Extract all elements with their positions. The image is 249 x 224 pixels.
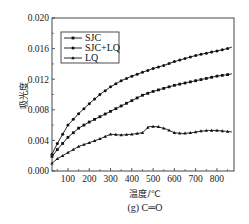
circle-marker-icon	[146, 69, 149, 72]
circle-marker-icon	[215, 49, 218, 52]
square-marker-icon	[88, 121, 91, 124]
square-marker-icon	[67, 136, 70, 139]
series-lq	[50, 125, 232, 165]
square-marker-icon	[98, 115, 101, 118]
square-marker-icon	[104, 113, 107, 116]
circle-marker-icon	[72, 118, 75, 121]
square-marker-icon	[184, 82, 187, 85]
square-marker-icon	[157, 89, 160, 92]
legend: SJCSJC+LQLQ	[61, 32, 121, 63]
line-chart: 100200300400500600700800 0.0000.0040.008…	[0, 0, 249, 224]
circle-marker-icon	[173, 60, 176, 63]
circle-marker-icon	[56, 142, 59, 145]
square-marker-icon	[120, 105, 123, 108]
square-marker-icon	[200, 78, 203, 81]
square-marker-icon	[141, 94, 144, 97]
x-tick-label: 500	[146, 174, 161, 184]
circle-marker-icon	[72, 47, 75, 50]
square-marker-icon	[146, 92, 149, 95]
square-marker-icon	[221, 74, 224, 77]
x-tick-label: 300	[103, 174, 118, 184]
circle-marker-icon	[189, 56, 192, 59]
square-marker-icon	[130, 99, 133, 102]
circle-marker-icon	[104, 89, 107, 92]
figure-caption: (g) C═O	[127, 202, 162, 214]
square-marker-icon	[168, 85, 171, 88]
y-tick-label: 0.000	[28, 166, 50, 176]
y-tick-label: 0.020	[28, 13, 50, 23]
circle-marker-icon	[66, 124, 69, 127]
x-axis: 100200300400500600700800	[57, 168, 227, 184]
circle-marker-icon	[125, 77, 128, 80]
circle-marker-icon	[93, 98, 96, 101]
square-marker-icon	[56, 148, 59, 151]
y-axis-title: 吸光度	[18, 82, 29, 109]
circle-marker-icon	[114, 82, 117, 85]
circle-marker-icon	[88, 102, 91, 105]
y-axis: 0.0000.0040.0080.0120.0160.020	[28, 13, 55, 176]
square-marker-icon	[178, 83, 181, 86]
y-tick-label: 0.016	[28, 44, 50, 54]
square-marker-icon	[194, 79, 197, 82]
square-marker-icon	[152, 90, 155, 93]
circle-marker-icon	[82, 107, 85, 110]
x-tick-label: 700	[189, 174, 204, 184]
square-marker-icon	[93, 118, 96, 121]
circle-marker-icon	[194, 54, 197, 57]
square-marker-icon	[136, 97, 139, 100]
legend-label: LQ	[85, 52, 99, 63]
circle-marker-icon	[184, 57, 187, 60]
square-marker-icon	[173, 84, 176, 87]
circle-marker-icon	[226, 47, 229, 50]
circle-marker-icon	[152, 67, 155, 70]
square-marker-icon	[83, 124, 86, 127]
circle-marker-icon	[109, 85, 112, 88]
x-tick-label: 400	[125, 174, 140, 184]
x-tick-label: 600	[167, 174, 182, 184]
circle-marker-icon	[157, 65, 160, 68]
circle-marker-icon	[178, 59, 181, 62]
square-marker-icon	[61, 142, 64, 145]
square-marker-icon	[125, 102, 128, 105]
square-marker-icon	[72, 37, 75, 40]
series-sjc	[51, 73, 232, 158]
x-tick-label: 100	[61, 174, 76, 184]
circle-marker-icon	[168, 62, 171, 65]
y-tick-label: 0.008	[28, 105, 50, 115]
square-marker-icon	[109, 110, 112, 113]
circle-marker-icon	[98, 93, 101, 96]
circle-marker-icon	[200, 53, 203, 56]
square-marker-icon	[205, 77, 208, 80]
circle-marker-icon	[136, 73, 139, 76]
series-line	[52, 74, 232, 157]
circle-marker-icon	[130, 75, 133, 78]
plot-series-group	[50, 47, 232, 164]
square-marker-icon	[77, 127, 80, 130]
x-axis-title: 温度/℃	[129, 188, 160, 199]
circle-marker-icon	[77, 112, 80, 115]
circle-marker-icon	[120, 79, 123, 82]
circle-marker-icon	[61, 133, 64, 136]
square-marker-icon	[114, 107, 117, 110]
y-tick-label: 0.012	[28, 75, 50, 85]
square-marker-icon	[216, 75, 219, 78]
circle-marker-icon	[210, 51, 213, 54]
circle-marker-icon	[141, 71, 144, 74]
circle-marker-icon	[162, 64, 165, 67]
y-tick-label: 0.004	[28, 136, 50, 146]
square-marker-icon	[210, 76, 213, 79]
square-marker-icon	[226, 73, 229, 76]
circle-marker-icon	[205, 52, 208, 55]
x-tick-label: 200	[82, 174, 97, 184]
square-marker-icon	[72, 131, 75, 134]
circle-marker-icon	[221, 48, 224, 51]
square-marker-icon	[189, 80, 192, 83]
square-marker-icon	[162, 87, 165, 90]
x-tick-label: 800	[210, 174, 225, 184]
